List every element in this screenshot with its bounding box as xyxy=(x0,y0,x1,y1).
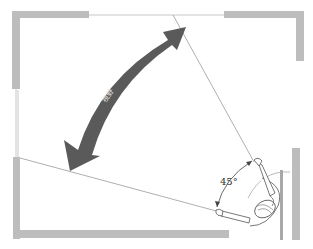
person-figure xyxy=(216,158,290,226)
field-of-view-arrow: 視野 xyxy=(64,27,186,171)
angle-marker: 45° xyxy=(215,161,252,207)
room-diagram: 視野 45° xyxy=(0,0,313,249)
view-rays xyxy=(20,15,254,212)
angle-label: 45° xyxy=(220,176,238,187)
